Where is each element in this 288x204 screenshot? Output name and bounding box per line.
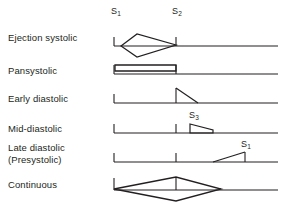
timeline-early-diastolic bbox=[114, 88, 278, 103]
murmur-shape-early-diastolic bbox=[176, 88, 198, 103]
murmur-shape-continuous bbox=[114, 177, 221, 201]
murmur-shape-mid-diastolic bbox=[190, 124, 213, 133]
timeline-late-diastolic bbox=[114, 152, 278, 162]
timeline-continuous bbox=[114, 177, 278, 201]
timeline-ejection-systolic bbox=[114, 34, 278, 57]
murmur-timing-diagram: Ejection systolic Pansystolic Early dias… bbox=[0, 0, 288, 204]
timeline-mid-diastolic bbox=[114, 124, 278, 133]
murmur-shape-pansystolic bbox=[115, 65, 176, 71]
timeline-pansystolic bbox=[114, 65, 278, 74]
waveform-canvas bbox=[0, 0, 288, 204]
murmur-shape-late-diastolic bbox=[213, 152, 245, 162]
